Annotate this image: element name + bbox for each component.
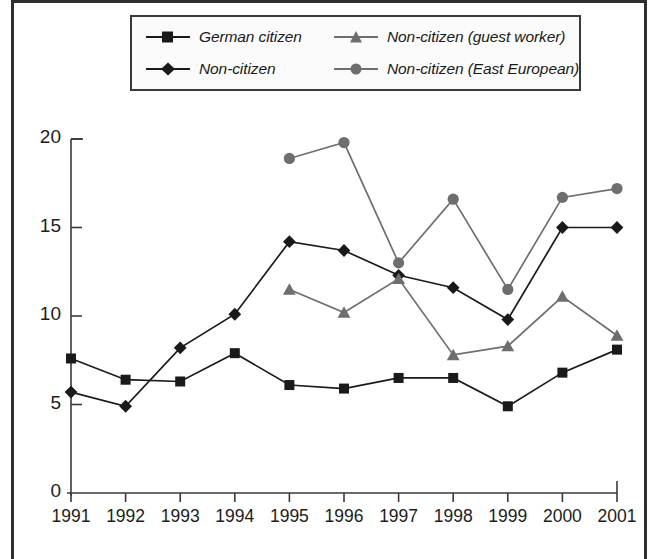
square-marker [557, 368, 567, 378]
figure-page: German citizen Non-citizen (guest worker… [0, 0, 660, 559]
square-marker [230, 348, 240, 358]
y-tick-label: 20 [27, 126, 61, 148]
square-marker [339, 384, 349, 394]
y-tick-label: 5 [27, 392, 61, 414]
circle-marker [448, 194, 459, 205]
series-german-citizen [66, 345, 622, 412]
x-tick-label: 2001 [589, 506, 645, 527]
x-tick-label: 1997 [371, 506, 427, 527]
x-tick-label: 1994 [207, 506, 263, 527]
square-marker [612, 345, 622, 355]
triangle-marker [338, 306, 351, 317]
square-marker [121, 375, 131, 385]
line-chart: 05101520 1991199219931994199519961997199… [0, 0, 660, 559]
square-marker [284, 380, 294, 390]
x-tick-label: 1999 [480, 506, 536, 527]
x-tick-label: 1993 [152, 506, 208, 527]
circle-marker [502, 284, 513, 295]
diamond-marker [283, 235, 296, 248]
x-tick-label: 1995 [261, 506, 317, 527]
square-marker [66, 353, 76, 363]
x-tick-label: 1992 [98, 506, 154, 527]
triangle-marker [556, 290, 569, 301]
circle-marker [611, 183, 622, 194]
x-tick-label: 1998 [425, 506, 481, 527]
diamond-marker [611, 221, 624, 234]
square-marker [503, 401, 513, 411]
x-tick-label: 2000 [534, 506, 590, 527]
diamond-marker [65, 386, 78, 399]
x-tick-label: 1996 [316, 506, 372, 527]
diamond-marker [228, 308, 241, 321]
circle-marker [338, 137, 349, 148]
y-tick-label: 10 [27, 303, 61, 325]
y-tick-label: 0 [27, 480, 61, 502]
diamond-marker [338, 244, 351, 257]
square-marker [448, 373, 458, 383]
triangle-marker [283, 283, 296, 294]
plot-area [0, 0, 660, 559]
circle-marker [557, 192, 568, 203]
circle-marker [284, 153, 295, 164]
triangle-marker [611, 329, 624, 340]
square-marker [394, 373, 404, 383]
square-marker [175, 376, 185, 386]
diamond-marker [556, 221, 569, 234]
series-non-citizen-east-european [284, 137, 623, 295]
diamond-marker [501, 313, 514, 326]
y-tick-label: 15 [27, 215, 61, 237]
diamond-marker [447, 281, 460, 294]
x-tick-label: 1991 [43, 506, 99, 527]
circle-marker [393, 257, 404, 268]
